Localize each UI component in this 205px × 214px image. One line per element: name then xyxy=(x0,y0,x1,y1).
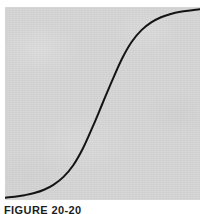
sigmoid-curve-line xyxy=(5,9,200,197)
figure-caption-row: FIGURE 20-20 xyxy=(4,205,205,214)
sigmoid-curve-plot xyxy=(5,7,200,200)
figure-caption-label: FIGURE 20-20 xyxy=(4,205,205,214)
figure-container: FIGURE 20-20 xyxy=(0,0,205,214)
plot-panel xyxy=(5,7,200,200)
